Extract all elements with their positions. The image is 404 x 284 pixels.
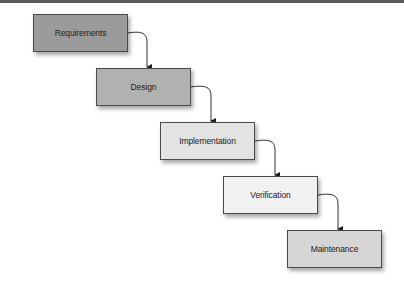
stage-design: Design	[96, 68, 191, 106]
stage-verification: Verification	[223, 176, 318, 214]
stage-label: Verification	[250, 190, 290, 200]
stage-requirements: Requirements	[33, 14, 128, 52]
stage-maintenance: Maintenance	[287, 230, 382, 268]
stage-label: Implementation	[179, 136, 236, 146]
arrow-implementation-to-verification	[255, 140, 275, 175]
stage-implementation: Implementation	[160, 122, 255, 160]
stage-label: Design	[131, 82, 157, 92]
arrow-design-to-implementation	[191, 86, 211, 121]
stage-label: Maintenance	[311, 244, 359, 254]
arrow-requirements-to-design	[128, 32, 147, 67]
arrow-verification-to-maintenance	[318, 194, 338, 229]
stage-label: Requirements	[55, 28, 107, 38]
